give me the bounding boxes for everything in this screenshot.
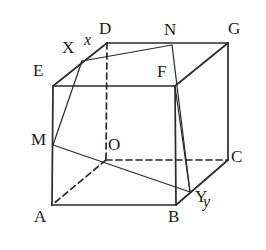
vertex-label-o: O <box>108 136 120 153</box>
section-M-Y <box>53 145 190 192</box>
vertex-label-f: F <box>157 63 166 80</box>
vertex-label-n: N <box>164 21 176 38</box>
cube-edge-layer <box>52 43 228 205</box>
edge-O-A <box>52 160 106 205</box>
vertex-label-b: B <box>168 208 179 225</box>
vertex-label-m: M <box>31 131 46 148</box>
edge-F-G <box>175 43 228 86</box>
cross-section-layer <box>53 45 190 192</box>
vertex-label-e: E <box>33 62 43 79</box>
vertex-label-a: A <box>34 208 46 225</box>
axis-label-x: x <box>84 32 91 48</box>
vertex-label-x: X <box>62 39 74 56</box>
vertex-label-c: C <box>231 148 242 165</box>
cube-diagram: DNGXEFMOCYABxy <box>0 0 266 250</box>
edge-D-O <box>106 43 107 160</box>
vertex-label-g: G <box>228 20 240 37</box>
vertex-label-d: D <box>99 20 111 37</box>
axis-label-y: y <box>203 194 210 210</box>
section-F-Y <box>175 86 190 192</box>
